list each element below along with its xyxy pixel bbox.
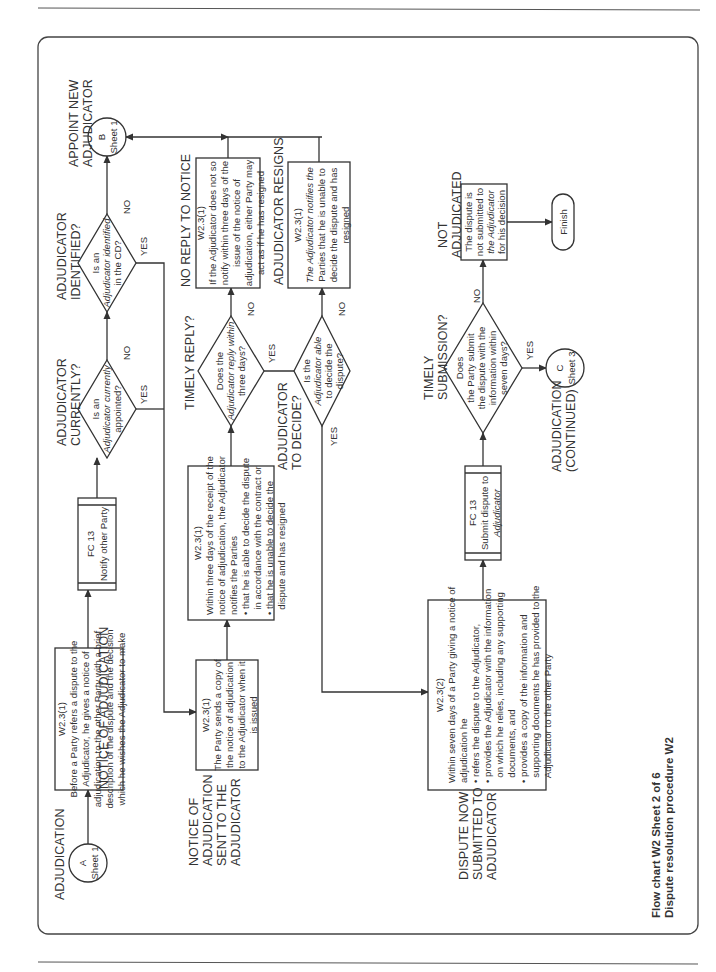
submit-dispute-line: Submit dispute to (479, 476, 490, 550)
notify-other-ref: FC 13 (85, 531, 96, 557)
label-no: NO (121, 346, 132, 360)
top-rule (38, 8, 700, 10)
seven-days-line: adjudication he (458, 718, 469, 783)
footer-subtitle: Dispute resolution procedure W2 (663, 737, 675, 918)
notice-ref: W2.3(1) (56, 702, 67, 736)
bottom-rule (38, 962, 698, 964)
section-timely-submission: SUBMISSION? (436, 315, 450, 400)
seven-days-ref: W2.3(2) (434, 678, 445, 712)
seven-days-line: on which he relies, including any suppor… (494, 592, 505, 783)
label-no: NO (245, 302, 256, 316)
decision-text: Adjudicator reply within (225, 322, 236, 422)
notify-other-party-box[interactable] (78, 498, 116, 590)
submit-dispute-line: Adjudicator (491, 488, 502, 538)
section-adjudicator-to-decide: ADJUDICATOR (276, 382, 290, 470)
decision-text: Is an (90, 253, 101, 274)
section-adjudicator-identified: ADJUDICATOR (55, 212, 69, 300)
decision-text: Does the (214, 352, 225, 390)
connector-a-letter: A (77, 859, 88, 866)
connector-a[interactable] (69, 844, 107, 882)
label-yes: YES (524, 341, 535, 360)
section-notice-sent: NOTICE OF (187, 798, 201, 866)
decision-text: appointed? (112, 385, 123, 432)
not-adjudicated-line: The dispute is (463, 192, 474, 252)
decision-text: Is the (301, 359, 312, 382)
not-adjudicated-line: for his decision (496, 190, 507, 254)
label-yes: YES (266, 344, 277, 363)
section-timely-reply: TIMELY REPLY? (183, 315, 197, 410)
section-notice-sent: ADJUDICATION (201, 775, 215, 866)
section-timely-submission: TIMELY (422, 355, 436, 400)
decision-text: Adjudicator able (312, 337, 323, 407)
flowchart-canvas: A Sheet 1 ADJUDICATION W2.3(1) Before a … (0, 0, 716, 972)
no-reply-line: adjudication, either Party may (243, 160, 254, 287)
party-sends-line: the notice of adjudication (224, 662, 235, 768)
label-no: NO (336, 302, 347, 316)
three-days-ref: W2.3(1) (192, 526, 203, 560)
section-no-reply: NO REPLY TO NOTICE (179, 154, 193, 287)
decision-text: the Party submit (465, 333, 476, 403)
decision-text: dispute? (334, 353, 345, 389)
label-no: NO (121, 200, 132, 214)
section-appoint-new: ADJUDICATOR (81, 79, 95, 167)
decision-text: Adjudicator currently (101, 364, 112, 454)
label-yes: YES (328, 427, 339, 446)
three-days-line: • that he is able to decide the dispute (240, 458, 251, 615)
section-adjudicator-to-decide: TO DECIDE? (290, 395, 304, 470)
resigns-ref: W2.3(1) (292, 208, 303, 242)
no-reply-line: act as if he has resigned (255, 171, 266, 275)
decision-text: Does (454, 357, 465, 380)
decision-text: the dispute with the (476, 327, 487, 410)
notice-line: Adjudicator, he gives a notice of (80, 651, 91, 787)
decision-text: seven days? (498, 341, 509, 395)
three-days-line: dispute and has resigned (276, 502, 287, 615)
section-adjudication: ADJUDICATION (53, 809, 67, 900)
connector-b-letter: B (96, 134, 107, 140)
decision-text: information within (487, 331, 498, 406)
not-adjudicated-line: not submitted to (474, 188, 485, 256)
connector-c-letter: C (554, 364, 565, 371)
seven-days-line: Within seven days of a Party giving a no… (446, 586, 457, 783)
section-adjudicator-currently: ADJUDICATOR (55, 358, 69, 446)
section-adjudicator-identified: IDENTIFIED? (69, 224, 83, 300)
notice-line: which he wishes the Adjudicator to make (116, 633, 127, 807)
arrow-yes-to-seven-days (322, 426, 428, 692)
section-dispute-submitted: ADJUDICATOR (485, 792, 499, 880)
section-not-adjudicated: NOT (436, 221, 450, 248)
section-notice-sent: SENT TO THE (215, 784, 229, 866)
three-days-line: Within three days of the receipt of the (204, 456, 215, 615)
section-notice-sent: ADJUDICATOR (229, 778, 243, 866)
seven-days-line: • provides the Adjudicator with the info… (482, 589, 493, 783)
resigns-line: Parties that he is unable to (316, 168, 327, 282)
page-frame (38, 37, 698, 934)
decision-text: Adjudicator identified (101, 218, 112, 309)
seven-days-line: Adjudicator to the other Party (542, 654, 553, 783)
seven-days-line: documents, and (506, 709, 517, 783)
party-sends-line: The Party sends a copy of (212, 659, 223, 771)
label-yes: YES (138, 385, 149, 404)
no-reply-line: issue of the notice of (231, 179, 242, 267)
connector-c-sheet: Sheet 3 (566, 351, 577, 384)
notice-line: Before a Party refers a dispute to the (68, 641, 79, 798)
resigns-line: The Adjudicator notifies the (304, 167, 315, 283)
footer-title: Flow chart W2 Sheet 2 of 6 (650, 772, 662, 918)
section-dispute-submitted: SUBMITTED TO (471, 787, 485, 880)
resigns-line: decide the dispute and has (328, 167, 339, 282)
three-days-line: notifies the Parties (228, 536, 239, 615)
seven-days-line: • refers the dispute to the Adjudicator, (470, 624, 481, 783)
three-days-line: notice of adjudication, the Adjudicator (216, 455, 227, 615)
connector-a-sheet: Sheet 1 (89, 846, 100, 879)
section-appoint-new: APPOINT NEW (67, 80, 81, 167)
section-adjudication-continued: (CONTINUED) (564, 389, 578, 472)
connector-b-sheet: Sheet 1 (108, 120, 119, 153)
no-reply-line: notify within three days of the (219, 161, 230, 285)
section-adjudicator-currently: CURRENTLY? (69, 364, 83, 446)
section-not-adjudicated: ADJUDICATED (450, 171, 464, 258)
seven-days-line: supporting documents he has provided to … (530, 586, 541, 783)
section-dispute-submitted: DISPUTE NOW (457, 792, 471, 880)
label-yes: YES (138, 237, 149, 256)
notify-other-text: Notify other Party (98, 507, 109, 581)
no-reply-ref: W2.3(1) (195, 206, 206, 240)
decision-text: Is an (90, 399, 101, 420)
three-days-line: in accordance with the contract or (252, 465, 263, 615)
